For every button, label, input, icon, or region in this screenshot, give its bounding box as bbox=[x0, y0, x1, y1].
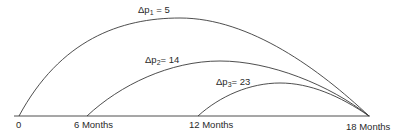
arc-delta-p2 bbox=[87, 61, 369, 116]
delta-p2-label: Δp2= 14 bbox=[145, 55, 179, 66]
delta-symbol: Δp bbox=[216, 76, 228, 87]
arc-delta-p1 bbox=[19, 18, 369, 116]
delta-value: 5 bbox=[164, 4, 169, 15]
tick-label-6-months: 6 Months bbox=[74, 120, 113, 130]
equals-sign: = bbox=[154, 4, 165, 15]
delta-symbol: Δp bbox=[138, 4, 150, 15]
arc-diagram bbox=[0, 0, 395, 135]
delta-p1-label: Δp1 = 5 bbox=[138, 5, 170, 16]
equals-sign: = bbox=[232, 76, 240, 87]
equals-sign: = bbox=[161, 54, 169, 65]
tick-label-0: 0 bbox=[16, 120, 21, 130]
delta-p3-label: Δp3= 23 bbox=[216, 77, 250, 88]
tick-label-12-months: 12 Months bbox=[189, 120, 233, 130]
delta-value: 14 bbox=[169, 54, 180, 65]
delta-value: 23 bbox=[240, 76, 251, 87]
tick-label-18-months: 18 Months bbox=[346, 122, 390, 132]
delta-symbol: Δp bbox=[145, 54, 157, 65]
